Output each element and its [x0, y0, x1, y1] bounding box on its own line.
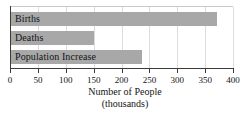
x-tick-label: 0	[0, 75, 24, 85]
plot-area: BirthsDeathsPopulation Increase 05010015…	[10, 6, 233, 68]
x-tick-mark	[149, 69, 150, 73]
x-tick-mark	[122, 69, 123, 73]
bar-category-label: Population Increase	[15, 49, 96, 63]
x-axis-title: Number of People (thousands)	[0, 86, 250, 110]
bar-chart: BirthsDeathsPopulation Increase 05010015…	[0, 0, 250, 117]
x-tick-label: 50	[24, 75, 52, 85]
x-tick-label: 100	[52, 75, 80, 85]
x-tick-label: 250	[135, 75, 163, 85]
bar-series: BirthsDeathsPopulation Increase	[11, 8, 233, 68]
x-tick-mark	[205, 69, 206, 73]
x-axis-title-line1: Number of People	[88, 86, 161, 97]
bar-category-label: Deaths	[15, 30, 43, 44]
x-tick-mark	[94, 69, 95, 73]
x-tick-label: 200	[108, 75, 136, 85]
x-tick-mark	[66, 69, 67, 73]
x-tick-label: 350	[191, 75, 219, 85]
bar	[11, 12, 217, 26]
bar-category-label: Births	[15, 11, 40, 25]
x-tick-mark	[38, 69, 39, 73]
x-tick-mark	[10, 69, 11, 73]
bar-row: Population Increase	[11, 50, 234, 64]
x-axis-title-line2: (thousands)	[0, 98, 250, 110]
bar-row: Births	[11, 12, 234, 26]
x-tick-label: 150	[80, 75, 108, 85]
x-tick-mark	[177, 69, 178, 73]
x-tick-mark	[233, 69, 234, 73]
bar-row: Deaths	[11, 31, 234, 45]
x-tick-label: 400	[219, 75, 247, 85]
x-tick-label: 300	[163, 75, 191, 85]
